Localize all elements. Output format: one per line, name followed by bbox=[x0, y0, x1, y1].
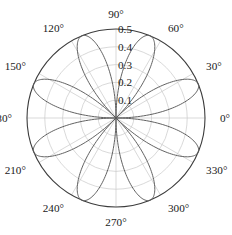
rose-petal-6 bbox=[116, 118, 155, 201]
radial-label-0.1: 0.1 bbox=[118, 94, 132, 106]
rose-petal-5 bbox=[77, 118, 116, 201]
grid-spoke bbox=[116, 118, 161, 195]
radial-label-0.4: 0.4 bbox=[118, 41, 132, 53]
radial-label-0.2: 0.2 bbox=[118, 76, 132, 88]
angle-label-240: 240° bbox=[43, 202, 64, 214]
angle-label-330: 330° bbox=[206, 164, 227, 176]
radial-label-0.5: 0.5 bbox=[118, 23, 132, 35]
angle-label-60: 60° bbox=[168, 22, 184, 34]
angle-label-30: 30° bbox=[206, 60, 222, 72]
grid-spoke bbox=[39, 118, 116, 163]
grid-spoke bbox=[39, 74, 116, 119]
angle-label-210: 210° bbox=[5, 164, 26, 176]
grid-spoke bbox=[72, 118, 117, 195]
angle-label-300: 300° bbox=[168, 202, 189, 214]
angle-label-90: 90° bbox=[108, 8, 124, 20]
rose-petal-7 bbox=[116, 118, 199, 157]
rose-petal-3 bbox=[33, 79, 116, 118]
angle-label-150: 150° bbox=[5, 60, 26, 72]
angle-label-270: 270° bbox=[105, 216, 126, 228]
rose-petal-4 bbox=[33, 118, 116, 157]
angle-label-120: 120° bbox=[43, 22, 64, 34]
radial-label-0.3: 0.3 bbox=[118, 59, 132, 71]
polar-chart: 0°30°60°90°120°150°180°210°240°270°300°3… bbox=[0, 0, 232, 235]
polar-plot-canvas: 0°30°60°90°120°150°180°210°240°270°300°3… bbox=[0, 0, 232, 235]
angle-label-180: 180° bbox=[0, 112, 12, 124]
radial-tick-labels: 0.10.20.30.40.5 bbox=[118, 23, 132, 106]
angle-label-0: 0° bbox=[220, 112, 230, 124]
rose-petal-2 bbox=[77, 35, 116, 118]
grid-spoke bbox=[116, 118, 193, 163]
grid-spoke bbox=[72, 41, 117, 118]
